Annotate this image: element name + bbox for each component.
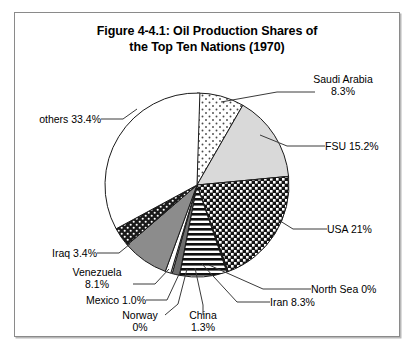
- leader-iraq: [97, 244, 130, 253]
- label-norway: Norway 0%: [109, 309, 171, 333]
- label-north-sea: North Sea 0%: [311, 283, 376, 295]
- label-saudi-arabia: Saudi Arabia 8.3%: [297, 73, 389, 97]
- label-china: China 1.3%: [175, 309, 231, 333]
- label-venezuela-value: 8.1%: [61, 278, 133, 290]
- label-venezuela: Venezuela 8.1%: [61, 266, 133, 290]
- label-iran: Iran 8.3%: [270, 296, 315, 308]
- label-venezuela-name: Venezuela: [61, 266, 133, 278]
- label-saudi-arabia-name: Saudi Arabia: [297, 73, 389, 85]
- label-mexico: Mexico 1.0%: [36, 294, 146, 306]
- label-norway-name: Norway: [109, 309, 171, 321]
- leader-others: [101, 109, 137, 119]
- label-china-value: 1.3%: [175, 321, 231, 333]
- label-saudi-arabia-value: 8.3%: [297, 85, 389, 97]
- figure-frame: Figure 4-4.1: Oil Production Shares of t…: [14, 12, 400, 337]
- label-china-name: China: [175, 309, 231, 321]
- label-usa: USA 21%: [327, 223, 372, 235]
- label-iraq: Iraq 3.4%: [27, 247, 97, 259]
- pie-slices: [105, 93, 289, 277]
- leader-usa: [277, 219, 327, 229]
- label-others: others 33.4%: [21, 113, 101, 125]
- label-fsu: FSU 15.2%: [325, 140, 379, 152]
- label-norway-value: 0%: [109, 321, 171, 333]
